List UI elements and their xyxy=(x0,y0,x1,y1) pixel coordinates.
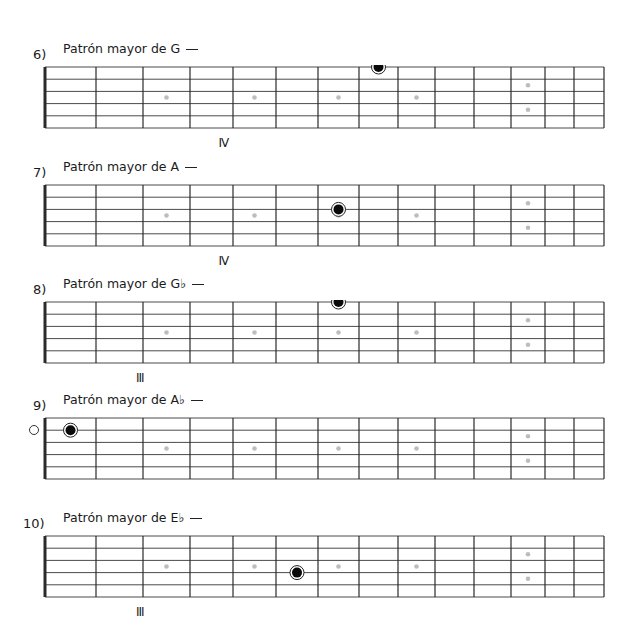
inlay-dot-icon xyxy=(526,107,531,112)
inlay-dot-icon xyxy=(164,446,169,451)
inlay-dot-icon xyxy=(336,95,341,100)
note-dot-icon xyxy=(334,204,344,214)
position-label: IV xyxy=(219,136,229,150)
inlay-dot-icon xyxy=(336,330,341,335)
inlay-dot-icon xyxy=(414,564,419,569)
note-dot-icon xyxy=(66,425,76,435)
answer-blank[interactable] xyxy=(191,400,203,401)
exercise-number: 8) xyxy=(33,282,46,297)
exercise-title-text: Patrón mayor de A♭ xyxy=(63,392,185,407)
exercise-number: 10) xyxy=(23,516,45,531)
inlay-dot-icon xyxy=(164,564,169,569)
fretboard-diagram xyxy=(0,534,633,599)
answer-blank[interactable] xyxy=(186,49,198,50)
answer-blank[interactable] xyxy=(190,518,202,519)
inlay-dot-icon xyxy=(414,95,419,100)
inlay-dot-icon xyxy=(252,330,257,335)
position-label: IV xyxy=(219,254,229,268)
inlay-dot-icon xyxy=(414,213,419,218)
inlay-dot-icon xyxy=(526,342,531,347)
exercise-title-text: Patrón mayor de G xyxy=(63,41,180,56)
exercise-title-text: Patrón mayor de A xyxy=(63,159,179,174)
inlay-dot-icon xyxy=(414,446,419,451)
inlay-dot-icon xyxy=(336,446,341,451)
exercise-title: Patrón mayor de A xyxy=(63,159,197,174)
answer-blank[interactable] xyxy=(192,284,204,285)
inlay-dot-icon xyxy=(526,201,531,206)
position-label: III xyxy=(136,605,144,619)
inlay-dot-icon xyxy=(252,564,257,569)
inlay-dot-icon xyxy=(526,83,531,88)
exercise-number: 6) xyxy=(33,47,46,62)
inlay-dot-icon xyxy=(252,446,257,451)
exercise-title: Patrón mayor de G xyxy=(63,41,198,56)
inlay-dot-icon xyxy=(252,95,257,100)
position-label: III xyxy=(136,371,144,385)
inlay-dot-icon xyxy=(336,564,341,569)
exercise-number: 9) xyxy=(33,398,46,413)
inlay-dot-icon xyxy=(164,330,169,335)
note-dot-icon xyxy=(292,568,302,578)
exercise-title: Patrón mayor de G♭ xyxy=(63,276,204,291)
fretboard-diagram xyxy=(0,65,633,130)
inlay-dot-icon xyxy=(526,225,531,230)
inlay-dot-icon xyxy=(526,576,531,581)
inlay-dot-icon xyxy=(526,458,531,463)
inlay-dot-icon xyxy=(164,213,169,218)
inlay-dot-icon xyxy=(526,434,531,439)
exercise-title-text: Patrón mayor de E♭ xyxy=(63,510,184,525)
inlay-dot-icon xyxy=(164,95,169,100)
answer-blank[interactable] xyxy=(185,167,197,168)
fretboard-diagram xyxy=(0,300,633,365)
fretboard-diagram xyxy=(0,416,633,481)
inlay-dot-icon xyxy=(252,213,257,218)
inlay-dot-icon xyxy=(414,330,419,335)
fretboard-diagram xyxy=(0,183,633,248)
exercise-title-text: Patrón mayor de G♭ xyxy=(63,276,186,291)
exercise-number: 7) xyxy=(33,165,46,180)
exercise-title: Patrón mayor de E♭ xyxy=(63,510,202,525)
inlay-dot-icon xyxy=(526,318,531,323)
inlay-dot-icon xyxy=(526,552,531,557)
exercise-title: Patrón mayor de A♭ xyxy=(63,392,203,407)
